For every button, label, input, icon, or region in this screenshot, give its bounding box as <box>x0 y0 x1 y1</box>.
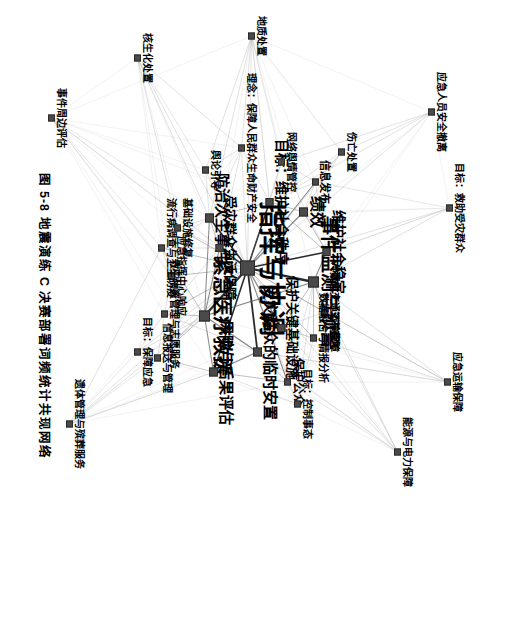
network-edge <box>251 36 431 112</box>
network-edge <box>51 118 241 148</box>
network-node-label: 受灾群众的临时安置 <box>262 285 277 420</box>
network-edge <box>51 118 205 170</box>
network-node-label: 应急运输保障 <box>451 352 461 412</box>
network-node-marker[interactable] <box>444 379 451 386</box>
network-node-marker[interactable] <box>158 245 165 252</box>
network-node-marker[interactable] <box>174 225 181 232</box>
network-node-label: 网络舆情管控 <box>285 132 295 192</box>
network-node-marker[interactable] <box>312 179 319 186</box>
figure-root: 指挥与协调紧急医疗救援事件监测与预警受灾群众的临时安置风险与后果评估防治次生事件… <box>0 0 509 632</box>
network-node-marker[interactable] <box>238 145 245 152</box>
network-node-label: 风险与后果评估 <box>218 320 233 425</box>
network-node-marker[interactable] <box>310 335 317 342</box>
network-node-marker[interactable] <box>248 33 255 40</box>
network-node-label: 地质处置 <box>255 16 265 56</box>
network-node-marker[interactable] <box>277 324 285 332</box>
network-node-marker[interactable] <box>66 421 73 428</box>
network-edge <box>51 118 161 248</box>
network-node-label: 核生化处置 <box>141 33 151 83</box>
network-node-marker[interactable] <box>278 159 285 166</box>
figure-caption: 图 5-8 地震演练 C 决赛部署词频统计共现网络 <box>35 0 54 632</box>
network-node-label: 数据融合与情报分析 <box>317 293 327 383</box>
network-edge <box>51 118 177 228</box>
network-node-label: 事件周边评估 <box>55 88 65 148</box>
network-node-marker[interactable] <box>209 368 218 377</box>
network-node-marker[interactable] <box>284 379 291 386</box>
network-node-marker[interactable] <box>253 348 262 357</box>
network-edge <box>51 118 164 314</box>
network-edge <box>315 182 449 208</box>
network-node-marker[interactable] <box>338 149 345 156</box>
network-node-marker[interactable] <box>294 401 301 408</box>
network-node-marker[interactable] <box>134 349 141 356</box>
network-node-label: 受灾群众生活保障 <box>224 196 237 300</box>
network-node-marker[interactable] <box>308 277 319 288</box>
network-node-marker[interactable] <box>161 311 168 318</box>
network-edge <box>137 58 161 248</box>
network-edge <box>137 58 241 148</box>
network-node-marker[interactable] <box>299 208 308 217</box>
figure-caption-wrapper: 图 5-8 地震演练 C 决赛部署词频统计共现网络 <box>30 0 54 632</box>
network-node-label: 遗体管理与殡葬服务 <box>73 379 83 469</box>
network-node-label: 流行病调查与卫生防疫 <box>165 198 175 298</box>
network-node-label: 伤亡处置 <box>345 132 355 172</box>
network-node-marker[interactable] <box>446 205 453 212</box>
network-graph: 指挥与协调紧急医疗救援事件监测与预警受灾群众的临时安置风险与后果评估防治次生事件… <box>0 0 509 560</box>
network-node-marker[interactable] <box>154 355 161 362</box>
network-edge <box>324 312 447 382</box>
network-node-marker[interactable] <box>205 214 214 223</box>
network-node-label: 应急人员安全撤离 <box>435 72 445 152</box>
network-node-marker[interactable] <box>202 167 209 174</box>
network-node-label: 舆论引导 <box>209 150 219 190</box>
network-node-label: 目标：救助受灾群众 <box>453 163 463 253</box>
network-node-marker[interactable] <box>322 248 330 256</box>
network-node-marker[interactable] <box>428 109 435 116</box>
network-node-marker[interactable] <box>134 55 141 62</box>
network-node-marker[interactable] <box>199 311 210 322</box>
network-node-label: 紧急交通运输保障 <box>328 272 338 352</box>
network-node-marker[interactable] <box>215 244 223 252</box>
network-edge <box>51 118 161 248</box>
network-node-label: 理念：保障人民群众生命财产安全 <box>245 73 255 223</box>
network-node-label: 能源与电力保障 <box>401 417 411 487</box>
network-node-marker[interactable] <box>240 261 255 276</box>
network-node-marker[interactable] <box>394 449 401 456</box>
network-node-label: 信息发布 <box>319 160 330 204</box>
network-node-label: 目标：保障应急 <box>141 317 151 387</box>
network-edge <box>51 118 171 276</box>
network-node-marker[interactable] <box>265 198 273 206</box>
network-edge <box>51 118 171 276</box>
network-node-label: 基础设施修复 <box>181 198 191 258</box>
network-node-label: 目标：控制事态 <box>301 369 311 439</box>
network-node-label: 信息报送与管理 <box>161 323 171 393</box>
network-edge <box>69 382 287 424</box>
rotated-figure-stage: 指挥与协调紧急医疗救援事件监测与预警受灾群众的临时安置风险与后果评估防治次生事件… <box>0 0 509 632</box>
